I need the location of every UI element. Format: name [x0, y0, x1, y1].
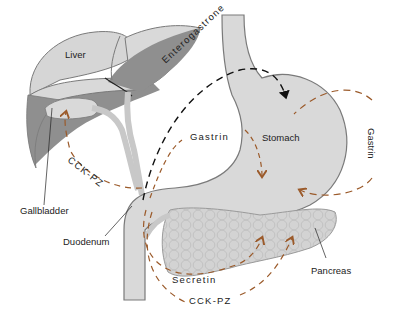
- liver-label: Liver: [65, 50, 86, 60]
- secretin-label: Secretin: [172, 275, 216, 285]
- pancreas-label: Pancreas: [311, 266, 351, 276]
- stomach-label: Stomach: [262, 133, 300, 143]
- duodenum-label: Duodenum: [63, 237, 109, 247]
- gallbladder-label: Gallbladder: [20, 206, 69, 216]
- cck-pz-pancreas-label: CCK-PZ: [189, 296, 232, 306]
- pancreas: [145, 208, 336, 276]
- gastrin-outer-label: Gastrin: [367, 128, 377, 159]
- gastrin-inner-label: Gastrin: [190, 132, 229, 142]
